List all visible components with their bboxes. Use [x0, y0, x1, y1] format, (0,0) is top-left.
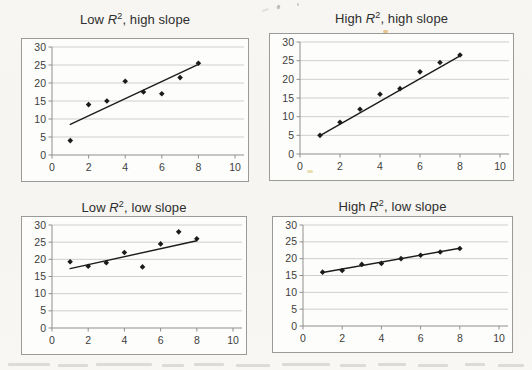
chart-title-high-r2-high-slope: High R2, high slope: [269, 11, 514, 26]
y-tick-label: 5: [40, 304, 46, 316]
caption-fragment: [282, 363, 330, 366]
y-tick-label: 15: [285, 269, 297, 281]
data-point: [320, 269, 326, 275]
y-tick-label: 15: [34, 270, 46, 282]
x-tick-label: 6: [159, 161, 165, 173]
chart-title-low-r2-low-slope: Low R2, low slope: [21, 200, 247, 215]
title-variable: R: [108, 12, 118, 27]
y-tick-label: 0: [40, 149, 46, 161]
y-tick-label: 25: [34, 59, 46, 71]
data-point: [337, 119, 343, 125]
scatter-chart: 0510152025300246810: [270, 34, 513, 180]
y-tick-label: 20: [282, 73, 294, 85]
caption-fragment: [96, 363, 152, 366]
y-tick-label: 30: [285, 219, 297, 231]
data-point: [418, 253, 424, 259]
y-tick-label: 20: [285, 252, 297, 264]
data-point: [317, 133, 323, 139]
caption-fragment: [58, 364, 88, 367]
x-tick-label: 10: [494, 160, 506, 172]
caption-fragment: [194, 363, 224, 366]
data-point: [104, 98, 110, 104]
x-tick-label: 2: [86, 161, 92, 173]
scatter-chart: 0510152025300246810: [273, 217, 512, 352]
title-text: Low: [80, 12, 108, 27]
y-tick-label: 30: [34, 41, 46, 53]
data-point: [417, 69, 423, 75]
data-point: [141, 89, 147, 95]
scatter-chart: 0510152025300246810: [22, 39, 248, 181]
scatter-chart: 0510152025300246810: [22, 217, 246, 354]
data-point: [176, 229, 182, 235]
x-tick-label: 0: [49, 161, 55, 173]
title-text: , high slope: [380, 11, 448, 26]
data-point: [457, 246, 463, 252]
y-tick-label: 0: [291, 320, 297, 332]
data-point: [68, 138, 74, 144]
title-text: , low slope: [124, 200, 187, 215]
y-tick-label: 10: [34, 113, 46, 125]
y-tick-label: 20: [34, 253, 46, 265]
x-tick-label: 0: [297, 160, 303, 172]
data-point: [377, 91, 383, 97]
x-tick-label: 4: [121, 334, 127, 346]
y-tick-label: 30: [282, 36, 294, 48]
data-point: [122, 250, 128, 256]
x-tick-label: 10: [227, 334, 239, 346]
y-tick-label: 25: [282, 54, 294, 66]
x-tick-label: 6: [158, 334, 164, 346]
y-tick-label: 15: [34, 95, 46, 107]
chart-panel-low-r2-high-slope: 0510152025300246810: [21, 38, 249, 182]
x-tick-label: 4: [378, 332, 384, 344]
chart-title-high-r2-low-slope: High R2, low slope: [272, 199, 513, 214]
scanned-figure-page: Low R2, high slope 0510152025300246810 H…: [0, 0, 532, 370]
x-tick-label: 8: [457, 160, 463, 172]
data-point: [398, 256, 404, 262]
x-tick-label: 10: [229, 161, 241, 173]
y-tick-label: 25: [285, 235, 297, 247]
y-tick-label: 30: [34, 219, 46, 231]
x-tick-label: 4: [377, 160, 383, 172]
chart-panel-high-r2-high-slope: 0510152025300246810: [269, 33, 514, 181]
data-point: [140, 264, 146, 270]
caption-fragment: [378, 363, 406, 366]
caption-fragment: [465, 363, 485, 366]
x-tick-label: 8: [195, 161, 201, 173]
y-tick-label: 0: [288, 148, 294, 160]
x-tick-label: 0: [300, 332, 306, 344]
caption-fragment: [162, 364, 184, 367]
caption-fragment: [340, 364, 366, 367]
chart-panel-high-r2-low-slope: 0510152025300246810: [272, 216, 513, 353]
y-tick-label: 10: [282, 110, 294, 122]
caption-fragment: [498, 364, 524, 367]
data-point: [159, 91, 165, 97]
caption-fragment: [8, 363, 50, 366]
y-tick-label: 5: [40, 131, 46, 143]
y-tick-label: 10: [285, 286, 297, 298]
title-variable: R: [109, 200, 119, 215]
data-point: [177, 75, 183, 81]
y-tick-label: 5: [288, 129, 294, 141]
title-variable: R: [369, 199, 379, 214]
title-text: High: [335, 11, 366, 26]
x-tick-label: 0: [49, 334, 55, 346]
title-text: , low slope: [384, 199, 447, 214]
chart-title-low-r2-high-slope: Low R2, high slope: [21, 12, 249, 27]
x-tick-label: 2: [85, 334, 91, 346]
y-tick-label: 0: [40, 322, 46, 334]
y-tick-label: 10: [34, 287, 46, 299]
y-tick-label: 25: [34, 236, 46, 248]
x-tick-label: 2: [337, 160, 343, 172]
caption-fragment: [418, 364, 448, 367]
x-tick-label: 6: [417, 160, 423, 172]
data-point: [437, 249, 443, 255]
title-text: Low: [81, 200, 109, 215]
data-point: [86, 102, 92, 108]
title-text: High: [339, 199, 370, 214]
x-tick-label: 6: [418, 332, 424, 344]
trend-line: [70, 64, 198, 124]
scan-artifact-speck: [297, 3, 299, 6]
title-text: , high slope: [122, 12, 190, 27]
y-tick-label: 20: [34, 77, 46, 89]
y-tick-label: 5: [291, 303, 297, 315]
